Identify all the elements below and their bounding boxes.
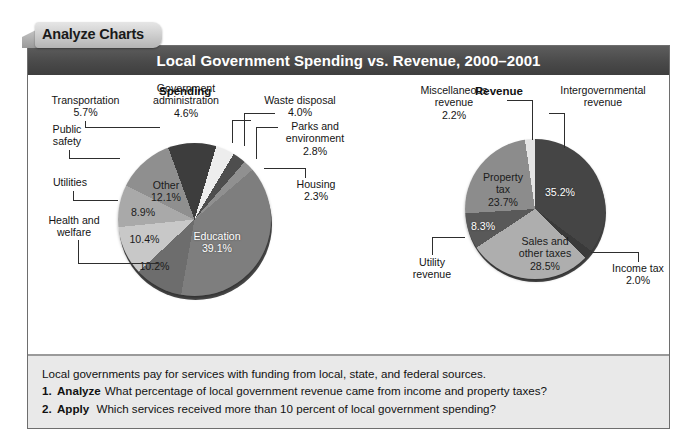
question-panel: Local governments pay for services with … [28,355,669,428]
revenue-sales-inpie: Sales and other taxes 28.5% [503,235,587,272]
intergov-leader-horizontal [549,113,564,114]
health-label-line1: Health and [48,214,99,226]
tab-label: Analyze Charts [42,26,144,42]
property-tax-label-line1: Property [483,171,523,183]
other-label: Other [153,179,180,191]
transportation-label: Transportation [52,94,120,106]
education-percent: 39.1% [202,242,232,254]
utilrev-leader-horizontal [432,237,465,238]
utilities-label: Utilities [53,176,87,188]
spending-utilities-pct-inpie: 10.4% [122,233,167,245]
spending-education-inpie: Education 39.1% [178,230,256,255]
question-2-verb: Apply [57,400,89,418]
health-welfare-callout: Health and welfare [28,214,120,239]
housing-label: Housing [297,178,336,190]
government-administration-callout: Government administration 4.6% [134,82,238,119]
sales-taxes-label-line2: other taxes [519,247,571,259]
figure-container: Local Government Spending vs. Revenue, 2… [27,45,670,429]
question-1-text: What percentage of local government reve… [105,382,547,400]
sales-taxes-percent: 28.5% [530,260,560,272]
utility-revenue-label-line1: Utility [419,256,445,268]
parks-leader-horizontal [256,127,278,128]
health-leader-vertical [78,240,79,264]
figure-title-bar: Local Government Spending vs. Revenue, 2… [28,46,669,75]
intergov-leader-vertical [564,113,565,148]
misc-revenue-percent: 2.2% [442,109,466,121]
govadmin-label-line1: Government [157,82,215,94]
utilities-callout: Utilities [30,176,110,188]
sales-taxes-label-line1: Sales and [521,235,568,247]
question-intro: Local governments pay for services with … [42,365,655,382]
public-safety-percent: 8.9% [131,206,155,218]
govadmin-leader-horizontal [232,120,251,121]
utilities-leader-horizontal [73,200,118,201]
parks-percent: 2.8% [303,145,327,157]
property-tax-percent: 23.7% [488,196,518,208]
misc-revenue-label-line1: Miscellaneous [420,84,487,96]
education-label: Education [193,230,240,242]
parks-label-line1: Parks and [291,120,339,132]
miscellaneous-revenue-callout: Miscellaneous revenue 2.2% [395,84,513,121]
question-item-1: 1. Analyze What percentage of local gove… [42,382,655,400]
question-1-verb: Analyze [57,382,101,400]
utility-revenue-callout: Utility revenue [396,256,468,281]
spending-other-inpie: Other 12.1% [140,179,192,204]
housing-percent: 2.3% [304,190,328,202]
housing-leader-horizontal [264,168,305,169]
transportation-callout: Transportation 5.7% [33,94,138,119]
question-1-number: 1. [42,382,57,400]
spending-pie-slices [118,143,271,296]
utility-revenue-percent: 8.3% [471,220,495,232]
govadmin-leader-vertical [232,120,233,143]
public-safety-leader-horizontal [69,158,120,159]
other-percent: 12.1% [151,191,181,203]
waste-leader-vertical [244,113,245,146]
intergovernmental-label-line1: Intergovernmental [560,84,645,96]
parks-environment-callout: Parks and environment 2.8% [260,120,370,157]
question-2-number: 2. [42,400,57,418]
question-item-2: 2. Apply Which services received more th… [42,400,655,418]
income-tax-label: Income tax [612,262,664,274]
health-label-line2: welfare [57,226,91,238]
income-tax-callout: Income tax 2.0% [591,262,685,287]
housing-callout: Housing 2.3% [272,178,360,203]
utilities-percent: 10.4% [129,233,159,245]
health-percent: 10.2% [139,260,169,272]
question-2-text: Which services received more than 10 per… [93,400,496,418]
revenue-utility-pct-inpie: 8.3% [462,220,504,232]
analyze-charts-tab: Analyze Charts [22,22,162,48]
intergovernmental-label-line2: revenue [584,96,622,108]
govadmin-percent: 4.6% [174,107,198,119]
health-leader-horizontal [78,263,158,264]
utility-revenue-label-line2: revenue [413,268,451,280]
public-safety-label-line2: safety [53,135,81,147]
figure-title: Local Government Spending vs. Revenue, 2… [156,52,540,69]
revenue-intergov-pct-inpie: 35.2% [533,186,587,198]
parks-label-line2: environment [286,132,344,144]
parks-leader-vertical [256,127,257,159]
public-safety-callout: Public safety [30,123,104,148]
spending-publicsafety-pct-inpie: 8.9% [123,206,163,218]
intergovernmental-percent: 35.2% [545,186,575,198]
utilrev-leader-vertical [432,237,433,255]
misc-revenue-label-line2: revenue [435,96,473,108]
govadmin-label-line2: administration [153,94,219,106]
waste-disposal-callout: Waste disposal 4.0% [246,94,354,119]
public-safety-label-line1: Public [53,123,82,135]
revenue-property-inpie: Property tax 23.7% [472,171,534,208]
income-leader-vertical [638,252,639,262]
waste-percent: 4.0% [288,106,312,118]
spending-health-pct-inpie: 10.2% [132,260,177,272]
charts-area: Spending Revenue Education 39.1% Other 1… [28,75,669,355]
housing-leader-vertical [305,168,306,178]
income-tax-percent: 2.0% [626,274,650,286]
spending-pie-chart [118,143,271,296]
property-tax-label-line2: tax [496,183,510,195]
intergovernmental-revenue-callout: Intergovernmental revenue [528,84,678,109]
income-leader-horizontal [591,252,639,253]
waste-leader-horizontal [244,113,275,114]
transportation-percent: 5.7% [73,106,97,118]
waste-label: Waste disposal [264,94,335,106]
